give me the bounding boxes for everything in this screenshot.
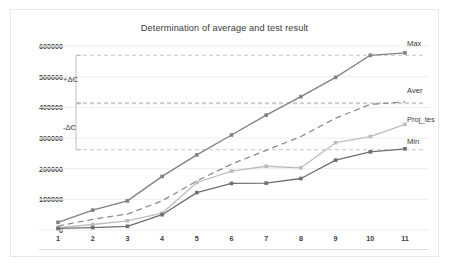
data-point bbox=[230, 169, 234, 173]
data-point bbox=[91, 226, 95, 230]
plus-delta-c-label: +ΔC bbox=[63, 75, 78, 84]
data-point bbox=[195, 181, 199, 185]
x-tick-label: 10 bbox=[366, 234, 374, 243]
series-label-proj_tes: Proj_tes bbox=[407, 115, 435, 124]
data-point bbox=[369, 135, 373, 139]
data-point bbox=[403, 147, 407, 151]
data-point bbox=[126, 225, 130, 229]
axis-bottom-rule bbox=[39, 249, 429, 250]
data-point bbox=[126, 199, 130, 203]
data-point bbox=[126, 219, 130, 223]
data-point bbox=[299, 95, 303, 99]
series-line-proj_tes bbox=[58, 124, 405, 227]
x-tick-label: 5 bbox=[195, 234, 199, 243]
data-point bbox=[264, 113, 268, 117]
data-point bbox=[195, 153, 199, 157]
x-tick-label: 7 bbox=[264, 234, 268, 243]
chart-title: Determination of average and test result bbox=[11, 23, 438, 33]
data-point bbox=[160, 175, 164, 179]
x-tick-label: 3 bbox=[125, 234, 129, 243]
data-point bbox=[334, 141, 338, 145]
data-point bbox=[56, 221, 60, 225]
data-point bbox=[334, 158, 338, 162]
plot-lines bbox=[58, 40, 405, 230]
y-axis: 0100000200000300000400000500000600000 bbox=[21, 40, 63, 230]
x-tick-label: 4 bbox=[160, 234, 164, 243]
series-label-aver: Aver bbox=[407, 86, 422, 95]
data-point bbox=[56, 227, 60, 231]
series-label-max: Max bbox=[407, 39, 421, 48]
data-point bbox=[195, 191, 199, 195]
x-tick-label: 11 bbox=[401, 234, 409, 243]
data-point bbox=[230, 133, 234, 137]
data-point bbox=[299, 177, 303, 181]
series-label-min: Min bbox=[407, 137, 419, 146]
data-point bbox=[369, 54, 373, 58]
data-point bbox=[91, 223, 95, 227]
series-line-aver bbox=[58, 102, 405, 226]
x-tick-label: 9 bbox=[334, 234, 338, 243]
x-tick-label: 2 bbox=[91, 234, 95, 243]
data-point bbox=[264, 181, 268, 185]
chart-frame: Determination of average and test result… bbox=[10, 9, 439, 257]
plot-area bbox=[58, 40, 405, 230]
data-point bbox=[264, 164, 268, 168]
data-point bbox=[91, 208, 95, 212]
data-point bbox=[160, 213, 164, 217]
data-point bbox=[230, 182, 234, 186]
x-tick-label: 8 bbox=[299, 234, 303, 243]
data-point bbox=[334, 76, 338, 80]
x-tick-label: 6 bbox=[230, 234, 234, 243]
x-axis: 1234567891011 bbox=[58, 234, 405, 250]
data-point bbox=[299, 166, 303, 170]
data-point bbox=[403, 51, 407, 55]
x-tick-label: 1 bbox=[56, 234, 60, 243]
data-point bbox=[369, 150, 373, 154]
minus-delta-c-label: -ΔC bbox=[63, 122, 76, 131]
